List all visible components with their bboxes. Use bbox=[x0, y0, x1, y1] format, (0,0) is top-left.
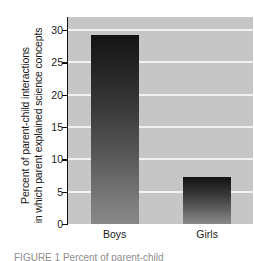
gridline bbox=[68, 29, 253, 31]
x-axis-tick-label-girls: Girls bbox=[196, 228, 218, 240]
bar-chart-figure: Percent of parent-child interactions in … bbox=[0, 0, 254, 261]
bar-boys bbox=[91, 35, 139, 224]
y-axis-tick-label: 0 bbox=[40, 219, 63, 229]
plot-area bbox=[68, 17, 253, 224]
y-axis-tick-label: 10 bbox=[40, 154, 63, 164]
bar-girls bbox=[183, 177, 231, 224]
y-axis-tick-label: 25 bbox=[40, 57, 63, 67]
x-axis-tick-label-boys: Boys bbox=[103, 228, 126, 240]
y-axis-tick-label: 5 bbox=[40, 187, 63, 197]
y-axis-tick-label: 20 bbox=[40, 90, 63, 100]
figure-caption: FIGURE 1 Percent of parent-child bbox=[14, 252, 246, 261]
y-axis-tick-label: 30 bbox=[40, 25, 63, 35]
y-axis-tick-label: 15 bbox=[40, 122, 63, 132]
y-axis-tick-labels: 051015202530 bbox=[40, 0, 63, 261]
